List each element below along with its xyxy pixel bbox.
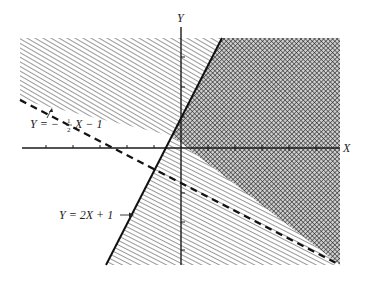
inequality-graph: X Y Y = − 1 2 X − 1 Y = 2X + 1 — [0, 0, 368, 283]
y-axis-label: Y — [177, 11, 185, 25]
solid-line-label: Y = 2X + 1 — [59, 208, 134, 222]
arrowhead-icon — [49, 108, 53, 112]
svg-text:Y = 2X + 1: Y = 2X + 1 — [59, 208, 113, 222]
x-axis-label: X — [342, 141, 351, 155]
svg-text:X − 1: X − 1 — [74, 117, 102, 131]
svg-text:Y = −: Y = − — [30, 117, 59, 131]
svg-text:1: 1 — [67, 117, 71, 125]
svg-text:2: 2 — [67, 126, 71, 134]
